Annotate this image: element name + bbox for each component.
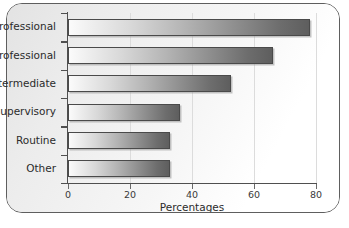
gridline [130, 13, 131, 183]
plot-area [68, 13, 316, 183]
category-axis-tick [61, 13, 68, 14]
category-label: er supervisory [0, 105, 56, 117]
gridline [254, 13, 255, 183]
bar [68, 75, 231, 92]
category-axis-tick [61, 183, 68, 184]
bar [68, 160, 170, 177]
category-axis-tick [61, 155, 68, 156]
x-axis-tick-label: 60 [248, 189, 260, 200]
category-label: Other [26, 162, 56, 174]
bar-fill [68, 132, 170, 149]
bar-fill [68, 75, 231, 92]
x-axis-tick-label: 0 [65, 189, 71, 200]
category-label: Routine [16, 134, 56, 146]
category-axis-tick [61, 41, 68, 42]
gridline [316, 13, 317, 183]
category-axis-tick [61, 98, 68, 99]
x-axis-tick-label: 40 [186, 189, 198, 200]
bar [68, 104, 180, 121]
bar [68, 47, 273, 64]
x-axis-tick-label: 20 [124, 189, 136, 200]
category-label: Intermediate [0, 77, 56, 89]
bar-fill [68, 160, 170, 177]
bar [68, 132, 170, 149]
bar [68, 19, 310, 36]
x-axis-title: Percentages [68, 201, 316, 213]
x-axis-tick-label: 80 [310, 189, 322, 200]
category-axis-tick [61, 126, 68, 127]
bar-fill [68, 104, 180, 121]
category-axis-tick [61, 70, 68, 71]
category-label: r professional [0, 20, 56, 32]
bar-fill [68, 47, 273, 64]
bar-fill [68, 19, 310, 36]
gridline [192, 13, 193, 183]
chart-frame: 020406080 Percentages [6, 3, 340, 213]
category-label: r professional [0, 49, 56, 61]
